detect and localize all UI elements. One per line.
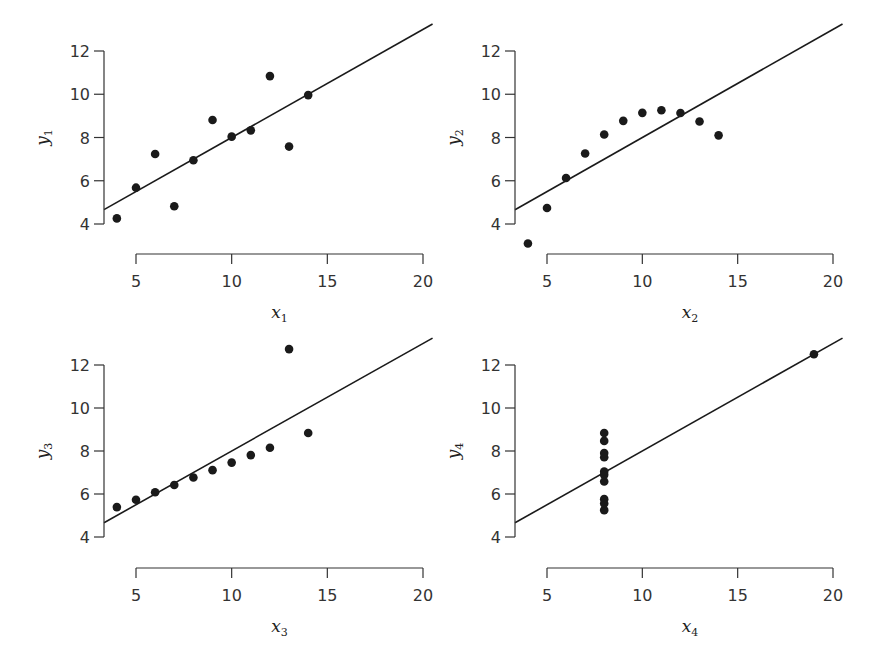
panel-4: 4681012 5101520 x4y4 xyxy=(443,338,843,639)
y-tick-label: 12 xyxy=(70,42,90,61)
data-point xyxy=(247,451,256,460)
x-tick-label: 15 xyxy=(727,272,747,291)
data-point xyxy=(227,458,236,467)
axis-labels: x2y2 xyxy=(443,129,698,325)
data-point xyxy=(189,156,198,165)
data-point xyxy=(638,109,647,118)
data-point xyxy=(247,126,256,135)
panel-3: 4681012 5101520 x3y3 xyxy=(32,338,433,639)
y-axis: 4681012 xyxy=(70,356,104,547)
data-point xyxy=(695,117,704,126)
data-points xyxy=(600,350,818,514)
y-tick-label: 10 xyxy=(70,399,90,418)
x-tick-label: 15 xyxy=(317,586,337,605)
x-tick-label: 10 xyxy=(632,586,652,605)
x-tick-label: 5 xyxy=(542,586,552,605)
panel-1: 4681012 5101520 x1y1 xyxy=(32,24,433,325)
x-axis-title: x1 xyxy=(271,302,288,325)
data-point xyxy=(151,150,160,159)
y-tick-label: 6 xyxy=(491,172,501,191)
y-tick-label: 12 xyxy=(481,42,501,61)
data-point xyxy=(208,466,217,475)
x-tick-label: 15 xyxy=(727,586,747,605)
x-tick-label: 20 xyxy=(413,272,433,291)
regression-line xyxy=(515,338,843,523)
y-tick-label: 12 xyxy=(70,356,90,375)
data-point xyxy=(132,496,141,505)
data-point xyxy=(170,481,179,490)
y-axis: 4681012 xyxy=(481,356,515,547)
x-tick-label: 20 xyxy=(823,586,843,605)
data-point xyxy=(676,109,685,118)
x-tick-label: 15 xyxy=(317,272,337,291)
data-point xyxy=(285,142,294,151)
x-tick-label: 5 xyxy=(131,586,141,605)
data-point xyxy=(170,202,179,211)
data-point xyxy=(657,106,666,115)
data-point xyxy=(132,183,141,192)
data-point xyxy=(600,499,609,508)
data-point xyxy=(151,488,160,497)
x-axis-title: x4 xyxy=(682,616,699,639)
data-points xyxy=(113,72,313,223)
x-axis: 5101520 xyxy=(131,568,433,605)
y-axis-title: y2 xyxy=(443,129,466,147)
x-axis-title: x3 xyxy=(271,616,288,639)
x-axis: 5101520 xyxy=(542,254,843,291)
y-tick-label: 6 xyxy=(80,172,90,191)
y-tick-label: 4 xyxy=(80,215,90,234)
data-point xyxy=(600,429,609,438)
x-axis: 5101520 xyxy=(542,568,843,605)
x-axis: 5101520 xyxy=(131,254,433,291)
y-tick-label: 10 xyxy=(481,399,501,418)
y-axis: 4681012 xyxy=(70,42,104,234)
y-tick-label: 4 xyxy=(80,528,90,547)
y-tick-label: 6 xyxy=(80,485,90,504)
x-tick-label: 10 xyxy=(221,586,241,605)
x-tick-label: 10 xyxy=(221,272,241,291)
data-points xyxy=(524,106,723,248)
data-point xyxy=(600,471,609,480)
data-point xyxy=(810,350,819,359)
x-tick-label: 20 xyxy=(823,272,843,291)
data-point xyxy=(619,117,628,126)
x-tick-label: 5 xyxy=(542,272,552,291)
data-point xyxy=(227,132,236,141)
data-points xyxy=(113,345,313,512)
data-point xyxy=(113,214,122,223)
x-tick-label: 5 xyxy=(131,272,141,291)
x-axis-title: x2 xyxy=(682,302,699,325)
data-point xyxy=(189,473,198,482)
y-axis-title: y1 xyxy=(32,129,55,147)
y-tick-label: 12 xyxy=(481,356,501,375)
y-tick-label: 6 xyxy=(491,485,501,504)
y-axis: 4681012 xyxy=(481,42,515,234)
data-point xyxy=(600,437,609,446)
panel-2: 4681012 5101520 x2y2 xyxy=(443,24,843,325)
y-tick-label: 8 xyxy=(491,442,501,461)
y-tick-label: 8 xyxy=(80,129,90,148)
data-point xyxy=(266,72,275,81)
data-point xyxy=(543,204,552,213)
regression-line xyxy=(104,24,433,210)
data-point xyxy=(600,130,609,139)
x-tick-label: 20 xyxy=(413,586,433,605)
y-tick-label: 4 xyxy=(491,215,501,234)
data-point xyxy=(714,131,723,140)
y-tick-label: 8 xyxy=(80,442,90,461)
data-point xyxy=(581,149,590,158)
y-axis-title: y4 xyxy=(443,443,466,461)
anscombe-quartet-figure: 4681012 5101520 x1y1 4681012 5101520 x2y… xyxy=(0,0,872,667)
y-axis-title: y3 xyxy=(32,443,55,461)
data-point xyxy=(266,443,275,452)
x-tick-label: 10 xyxy=(632,272,652,291)
data-point xyxy=(208,116,217,125)
y-tick-label: 10 xyxy=(481,85,501,104)
y-tick-label: 10 xyxy=(70,85,90,104)
data-point xyxy=(113,503,122,512)
data-point xyxy=(562,174,571,183)
data-point xyxy=(524,239,533,248)
data-point xyxy=(304,91,313,100)
axis-labels: x4y4 xyxy=(443,443,698,639)
data-point xyxy=(600,449,609,458)
